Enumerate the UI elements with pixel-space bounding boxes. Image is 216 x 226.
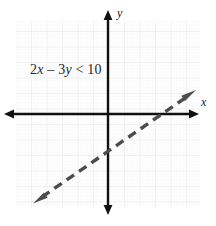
graph-figure: y x 2x – 3y < 10: [0, 0, 216, 226]
inequality-constant: 10: [87, 62, 101, 77]
y-axis-label: y: [117, 7, 122, 19]
coordinate-plane-svg: [0, 0, 216, 226]
inequality-annotation: 2x – 3y < 10: [30, 63, 102, 77]
y-axis-top-arrowhead: [104, 10, 113, 20]
x-axis-left-arrowhead: [4, 110, 14, 119]
inequality-minus-operator: –: [44, 62, 59, 77]
x-axis-label: x: [201, 96, 206, 108]
y-axis-bottom-arrowhead: [104, 205, 113, 215]
inequality-relation-operator: <: [72, 62, 88, 77]
